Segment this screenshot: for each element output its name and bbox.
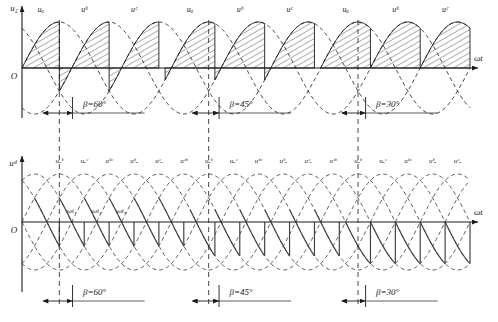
lower-chart: uᵈOωtuₐᵇuₐᶜuᵇᶜuᵇₐuᶜₐuᶜᵇuₐᵇuₐᶜuᵇᶜuᵇₐuᶜₐuᶜ… — [9, 156, 483, 307]
lower-beta-0-label: β=60° — [82, 287, 107, 297]
conduction-segment — [370, 22, 420, 68]
lower-y-axis-label: uᵈ — [9, 158, 18, 168]
waveform-figure: u₂Oωtuₐuᵇuᶜuₐuᵇuᶜuₐuᵇuᶜβ=60°β=45°β=30° u… — [0, 0, 498, 322]
ud-output-segment — [240, 210, 265, 256]
lower-x-axis-label: ωt — [474, 207, 483, 217]
lower-wave-label: uᵇᶜ — [255, 157, 263, 165]
conduction-segment — [215, 22, 265, 80]
conduction-segment — [321, 22, 371, 68]
lower-wave-label: uₐᶜ — [379, 157, 388, 165]
upper-beta-0-label: β=60° — [82, 99, 107, 109]
ud-output-segment — [420, 222, 445, 264]
time-mark-label: ωt₂ — [92, 207, 102, 215]
lower-wave-label: uₐᶜ — [230, 157, 239, 165]
lower-wave-label: uᶜₐ — [305, 157, 312, 165]
ud-output-segment — [290, 210, 315, 256]
upper-beta-1-label: β=45° — [228, 99, 253, 109]
lower-wave-label: uᶜᵇ — [329, 157, 337, 165]
lower-beta-1-label: β=45° — [228, 287, 253, 297]
upper-wave-label: uₐ — [342, 5, 349, 14]
conduction-segment — [59, 22, 109, 91]
upper-wave-label: uᵇ — [81, 5, 88, 14]
ud-output-segment — [190, 210, 215, 256]
ud-output-segment — [445, 222, 470, 264]
upper-wave-label: uᶜ — [131, 5, 138, 14]
lower-wave-label: uₐᵇ — [354, 157, 363, 165]
conduction-segment — [420, 22, 470, 68]
lower-wave-label: uᵇₐ — [280, 157, 287, 165]
time-mark-label: ωt₃ — [117, 207, 127, 215]
conduction-segment — [265, 22, 315, 80]
upper-wave-label: uᶜ — [442, 5, 449, 14]
upper-wave-label: uᶜ — [287, 5, 294, 14]
upper-beta-2-label: β=30° — [375, 99, 400, 109]
time-mark-label: ωt₁ — [67, 207, 76, 215]
lower-wave-label: uᵇᶜ — [105, 157, 113, 165]
lower-wave-label: uᶜᵇ — [180, 157, 188, 165]
ud-output-segment — [265, 210, 290, 256]
lower-wave-label: uₐᶜ — [81, 157, 90, 165]
figure-root: u₂Oωtuₐuᵇuᶜuₐuᵇuᶜuₐuᵇuᶜβ=60°β=45°β=30° u… — [0, 0, 498, 322]
upper-y-axis-label: u₂ — [10, 3, 18, 13]
upper-wave-label: uᵇ — [237, 5, 244, 14]
upper-chart: u₂Oωtuₐuᵇuᶜuₐuᵇuᶜuₐuᵇuᶜβ=60°β=45°β=30° — [10, 3, 483, 119]
lower-beta-2-label: β=30° — [375, 287, 400, 297]
upper-wave-label: uᵇ — [392, 5, 399, 14]
lower-wave-label: uᵇₐ — [130, 157, 137, 165]
ud-output-segment — [314, 210, 339, 256]
upper-wave-label: uₐ — [37, 5, 44, 14]
lower-wave-label: uₐᵇ — [56, 157, 65, 165]
ud-output-segment — [395, 222, 420, 264]
upper-origin-label: O — [11, 71, 18, 81]
ud-output-segment — [370, 222, 395, 264]
lower-wave-label: uᶜₐ — [155, 157, 162, 165]
lower-wave-label: uᵇₐ — [429, 157, 436, 165]
upper-x-axis-label: ωt — [474, 53, 483, 63]
conduction-segment — [165, 22, 215, 80]
lower-origin-label: O — [11, 225, 18, 235]
conduction-segment — [22, 22, 59, 68]
lower-wave-label: uᶜₐ — [454, 157, 461, 165]
lower-wave-label: uᵇᶜ — [404, 157, 412, 165]
ud-output-segment — [215, 210, 240, 256]
upper-wave-label: uₐ — [187, 5, 194, 14]
lower-wave-label: uₐᵇ — [205, 157, 214, 165]
conduction-segment — [109, 22, 159, 91]
